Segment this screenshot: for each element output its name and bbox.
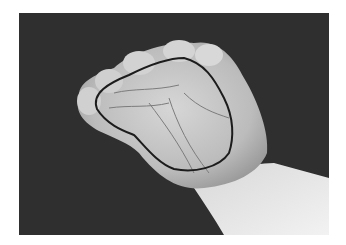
hand-illustration: [19, 13, 329, 235]
thumb-tip: [195, 44, 223, 66]
hand-photograph: [19, 13, 329, 235]
finger-tip-middle: [123, 51, 155, 75]
finger-tip-ring: [95, 69, 123, 93]
